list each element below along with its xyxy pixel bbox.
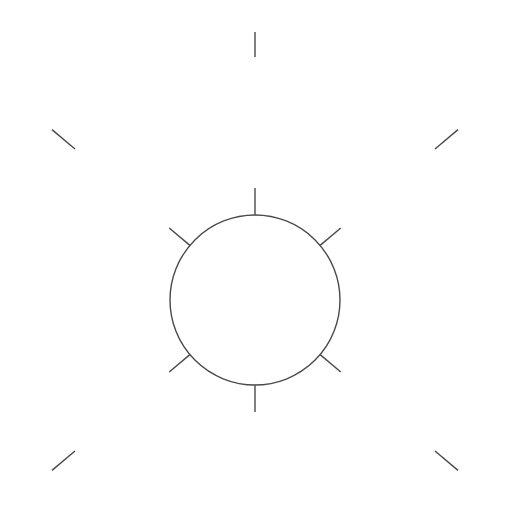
radial-burst-figure bbox=[0, 0, 510, 516]
figure-background bbox=[0, 0, 510, 516]
